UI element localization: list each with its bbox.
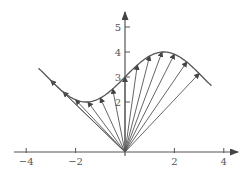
x-tick-label: −4 (19, 156, 34, 167)
vector-arrow (88, 102, 125, 152)
vector-arrow (125, 62, 187, 152)
y-tick-label: 3 (115, 72, 121, 83)
axes (14, 12, 238, 156)
x-tick-label: 4 (221, 156, 227, 167)
chart-canvas: −4−2242345 (0, 0, 248, 173)
y-tick-label: 2 (115, 97, 121, 108)
y-tick-label: 4 (115, 47, 121, 58)
tick-labels: −4−2242345 (19, 22, 227, 167)
vector-arrow (100, 98, 125, 152)
vector-arrow (125, 74, 199, 153)
x-tick-label: 2 (171, 156, 177, 167)
vector-arrow (125, 52, 162, 152)
vector-field-chart: −4−2242345 (0, 0, 248, 173)
y-tick-label: 5 (115, 22, 121, 33)
x-tick-label: −2 (68, 156, 83, 167)
vector-arrow (125, 56, 150, 152)
